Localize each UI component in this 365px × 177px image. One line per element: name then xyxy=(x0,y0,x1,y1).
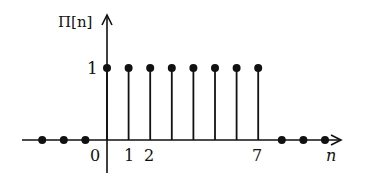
x-tick-2: 2 xyxy=(144,146,154,165)
x-tick-0: 0 xyxy=(90,146,100,165)
y-tick-1: 1 xyxy=(87,58,98,78)
stem-marker xyxy=(278,136,286,144)
x-axis-label: n xyxy=(326,146,336,165)
stem-marker xyxy=(81,136,89,144)
stem-marker xyxy=(211,64,219,72)
stem-marker xyxy=(321,136,329,144)
x-tick-7: 7 xyxy=(252,146,262,165)
stem-plot: Π[n] 1 0 1 2 7 n xyxy=(0,0,365,177)
stem-marker xyxy=(146,64,154,72)
stem-marker xyxy=(189,64,197,72)
stem-marker xyxy=(38,136,46,144)
stem-marker xyxy=(233,64,241,72)
x-tick-1: 1 xyxy=(124,146,134,165)
stem-marker xyxy=(299,136,307,144)
stems-group xyxy=(38,64,329,144)
plot-canvas: Π[n] 1 0 1 2 7 n xyxy=(0,0,365,177)
stem-marker xyxy=(254,64,262,72)
y-axis-label: Π[n] xyxy=(58,13,92,31)
stem-marker xyxy=(125,64,133,72)
stem-marker xyxy=(103,64,111,72)
stem-marker xyxy=(168,64,176,72)
stem-marker xyxy=(60,136,68,144)
